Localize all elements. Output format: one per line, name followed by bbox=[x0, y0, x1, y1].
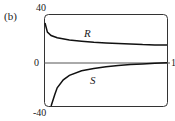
plot-area bbox=[0, 0, 175, 121]
curve-R bbox=[45, 23, 167, 45]
curve-label-S: S bbox=[90, 75, 96, 85]
plot-frame bbox=[45, 15, 168, 107]
curve-S bbox=[51, 63, 167, 106]
curve-label-R: R bbox=[84, 28, 91, 38]
